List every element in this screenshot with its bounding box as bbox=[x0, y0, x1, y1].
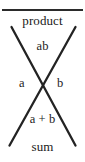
product-label: product bbox=[0, 14, 85, 27]
bottom-quadrant-label: a + b bbox=[0, 113, 85, 126]
top-quadrant-label: ab bbox=[0, 40, 85, 53]
right-quadrant-label: b bbox=[57, 77, 63, 90]
left-quadrant-label: a bbox=[19, 77, 25, 90]
factoring-x-diagram: product ab a b a + b sum bbox=[0, 0, 85, 162]
sum-label: sum bbox=[0, 140, 85, 153]
